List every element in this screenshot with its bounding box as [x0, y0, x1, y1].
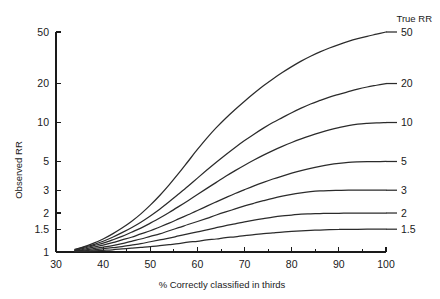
- x-tick-label: 80: [286, 258, 298, 270]
- legend-title: True RR: [396, 13, 432, 24]
- series-label-1-5: 1.5: [401, 223, 416, 235]
- series-label-50: 50: [401, 26, 413, 38]
- figure-container: 11.5235102050304050607080901005020105321…: [0, 0, 440, 299]
- x-tick-label: 40: [97, 258, 109, 270]
- x-tick-label: 70: [239, 258, 251, 270]
- x-tick-label: 100: [377, 258, 395, 270]
- x-tick-label: 90: [333, 258, 345, 270]
- series-curve-10: [75, 123, 386, 251]
- series-label-10: 10: [401, 116, 413, 128]
- axes-group: [56, 32, 386, 252]
- y-axis-title: Observed RR: [13, 141, 24, 199]
- x-tick-label: 30: [50, 258, 62, 270]
- series-curve-3: [75, 190, 386, 251]
- x-axis-title: % Correctly classified in thirds: [159, 279, 286, 290]
- y-tick-label: 1.5: [34, 223, 49, 235]
- series-label-3: 3: [401, 184, 407, 196]
- series-label-20: 20: [401, 77, 413, 89]
- y-tick-label: 50: [37, 26, 49, 38]
- series-curve-50: [75, 32, 386, 249]
- curves-group: [75, 32, 397, 252]
- y-tick-label: 1: [43, 246, 49, 258]
- x-tick-label: 50: [144, 258, 156, 270]
- labels-group: 11.5235102050304050607080901005020105321…: [34, 26, 415, 270]
- y-tick-label: 5: [43, 155, 49, 167]
- chart-canvas: 11.5235102050304050607080901005020105321…: [0, 0, 440, 299]
- x-tick-label: 60: [192, 258, 204, 270]
- y-tick-label: 2: [43, 207, 49, 219]
- y-tick-label: 20: [37, 77, 49, 89]
- series-label-5: 5: [401, 155, 407, 167]
- y-tick-label: 3: [43, 184, 49, 196]
- series-label-2: 2: [401, 207, 407, 219]
- y-tick-label: 10: [37, 116, 49, 128]
